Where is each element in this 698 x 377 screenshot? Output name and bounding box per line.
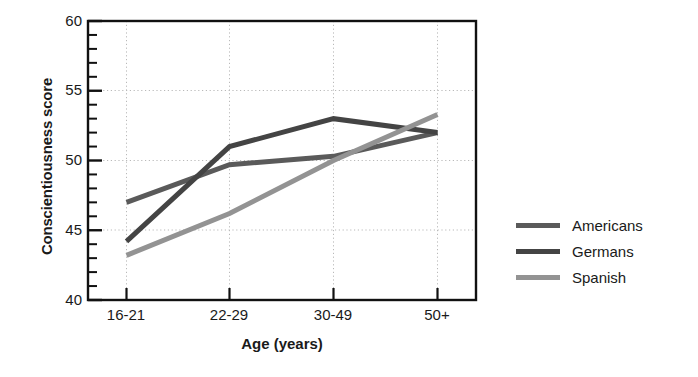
- chart-legend: Americans Germans Spanish: [516, 212, 696, 290]
- line-chart-figure: Conscientiousness score 60 55 50 45 40: [0, 0, 698, 377]
- legend-label-spanish: Spanish: [572, 269, 626, 286]
- x-tick-label-22-29: 22-29: [177, 306, 281, 323]
- legend-label-germans: Germans: [572, 243, 634, 260]
- legend-item-spanish: Spanish: [516, 264, 696, 290]
- legend-item-americans: Americans: [516, 212, 696, 238]
- x-tick-label-30-49: 30-49: [281, 306, 385, 323]
- legend-swatch-spanish: [516, 275, 560, 280]
- x-tick-label-50plus: 50+: [385, 306, 489, 323]
- legend-item-germans: Germans: [516, 238, 696, 264]
- x-axis-title: Age (years): [88, 335, 476, 352]
- legend-label-americans: Americans: [572, 217, 643, 234]
- x-tick-label-16-21: 16-21: [74, 306, 178, 323]
- legend-swatch-germans: [516, 249, 560, 254]
- legend-swatch-americans: [516, 223, 560, 228]
